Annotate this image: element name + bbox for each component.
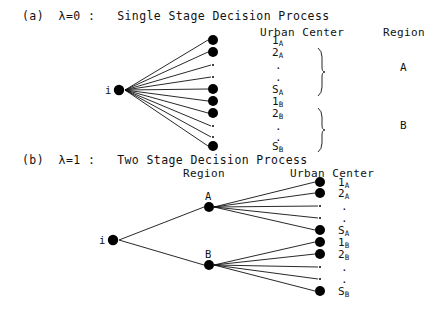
panel-b-origin-label: i <box>99 235 105 246</box>
panel-a-edge-1 <box>125 52 208 90</box>
panel-b-urban-center-dot-8 <box>319 278 321 280</box>
panel-b-edge-A-1 <box>214 193 315 207</box>
panel-b-urban-center-node-5 <box>315 237 325 247</box>
panel-a-urban-center-node-5 <box>208 96 218 106</box>
panel-b-edge-B-0 <box>214 242 315 265</box>
panel-b-region-node-label-b: B <box>205 249 211 260</box>
panel-b-edge-B-1 <box>214 254 315 265</box>
panel-b-region-node-label-a: A <box>205 191 211 202</box>
panel-b-origin-node <box>108 235 118 245</box>
panel-b-region-node-B <box>204 260 214 270</box>
panel-b-urban-center-dot-7 <box>319 266 321 268</box>
panel-a-urban-center-node-9 <box>208 141 218 151</box>
panel-a-urban-center-node-4 <box>208 84 218 94</box>
panel-b-edge-A-0 <box>214 182 315 207</box>
panel-a-edge-3 <box>125 77 211 90</box>
panel-b-urban-center-node-1 <box>315 188 325 198</box>
panel-a-region-label-A: A <box>400 62 407 73</box>
urban-center-ellipsis: . <box>341 274 348 285</box>
panel-b-edge-A-2 <box>214 206 318 207</box>
panel-a-edge-6 <box>125 90 208 113</box>
panel-a-urban-center-node-6 <box>208 108 218 118</box>
urban-center-label-base: 2 <box>272 46 279 59</box>
panel-a-origin-node <box>114 85 124 95</box>
panel-b-edge-B-4 <box>214 265 315 291</box>
urban-center-ellipsis: . <box>341 213 348 224</box>
urban-center-label-2B: 2B <box>272 108 283 119</box>
urban-center-ellipsis: . <box>341 201 348 212</box>
urban-center-label-base: 2 <box>272 107 279 120</box>
panel-a-urban-center-node-0 <box>208 35 218 45</box>
panel-b-region-header: Region <box>183 168 225 179</box>
panel-b-urban-center-header: Urban Center <box>290 168 374 179</box>
panel-b-urban-center-dot-2 <box>319 205 321 207</box>
panel-a-urban-center-dot-7 <box>212 125 214 127</box>
urban-center-label-1B: 1B <box>338 237 349 248</box>
panel-b-edge-i-to-B <box>119 240 204 265</box>
urban-center-label-SA: SA <box>338 225 349 236</box>
urban-center-label-SB: SB <box>338 286 349 297</box>
urban-center-label-base: S <box>338 285 345 298</box>
panel-b-edge-A-4 <box>214 207 315 230</box>
urban-center-label-2B: 2B <box>338 249 349 260</box>
panel-a-urban-center-dot-2 <box>212 64 214 66</box>
urban-center-label-2A: 2A <box>338 188 349 199</box>
urban-center-ellipsis: . <box>275 60 282 71</box>
panel-a-edge-9 <box>125 90 208 146</box>
urban-center-label-1B: 1B <box>272 96 283 107</box>
panel-a-region-label-B: B <box>400 120 407 131</box>
panel-b-edge-A-3 <box>214 207 318 218</box>
urban-center-ellipsis: . <box>275 72 282 83</box>
panel-a-edge-8 <box>125 90 211 137</box>
panel-b-urban-center-node-9 <box>315 286 325 296</box>
panel-a-region-brace-B <box>318 108 325 152</box>
panel-a-edge-2 <box>125 65 211 90</box>
panel-b-urban-center-node-6 <box>315 249 325 259</box>
urban-center-label-base: S <box>272 140 279 153</box>
urban-center-label-base: 2 <box>338 187 345 200</box>
urban-center-label-SA: SA <box>272 84 283 95</box>
urban-center-ellipsis: . <box>341 262 348 273</box>
panel-b-urban-center-dot-3 <box>319 217 321 219</box>
panel-a-urban-center-node-1 <box>208 47 218 57</box>
urban-center-label-base: 2 <box>338 248 345 261</box>
urban-center-label-1A: 1A <box>272 35 283 46</box>
panel-a-region-brace-A <box>318 48 325 96</box>
panel-a-edge-4 <box>125 89 208 90</box>
panel-b-caption: (b) λ=1 : Two Stage Decision Process <box>22 155 308 167</box>
panel-b-edge-i-to-A <box>119 207 204 240</box>
panel-b-urban-center-node-4 <box>315 225 325 235</box>
panel-b-region-node-A <box>204 202 214 212</box>
panel-a-urban-center-dot-3 <box>212 76 214 78</box>
urban-center-label-2A: 2A <box>272 47 283 58</box>
urban-center-label-SB: SB <box>272 141 283 152</box>
panel-a-urban-center-dot-8 <box>212 136 214 138</box>
panel-a-edge-0 <box>125 40 208 90</box>
figure-root: (a) λ=0 : Single Stage Decision Process … <box>0 0 445 313</box>
urban-center-label-subscript: B <box>345 290 350 299</box>
